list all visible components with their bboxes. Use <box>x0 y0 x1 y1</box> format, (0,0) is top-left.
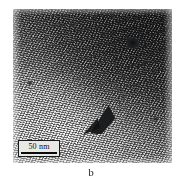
dark-speck-left <box>27 81 33 85</box>
tem-micrograph-image: 50 nm <box>13 9 172 163</box>
scale-bar: 50 nm <box>18 140 60 157</box>
figure-panel: 50 nm b <box>0 0 182 185</box>
dark-blob-feature-small <box>137 29 143 34</box>
dark-speck-top <box>70 23 74 27</box>
panel-caption-label: b <box>0 166 182 179</box>
scale-bar-rule <box>21 152 57 154</box>
dark-blob-feature <box>126 37 140 49</box>
scale-bar-label: 50 nm <box>21 142 57 151</box>
dark-speck-right <box>153 117 158 121</box>
